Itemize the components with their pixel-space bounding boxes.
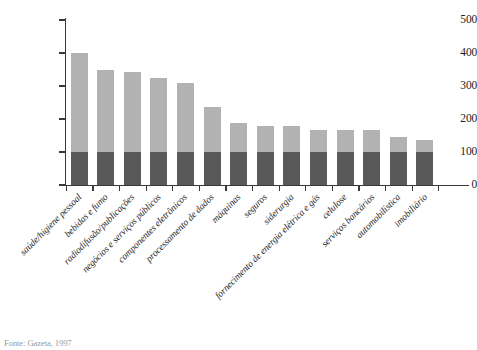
bar-segment-base — [204, 152, 221, 185]
bar-segment-upper — [97, 70, 114, 153]
bar-segment-base — [337, 152, 354, 185]
bar-segment-base — [363, 152, 380, 185]
bar — [337, 130, 354, 185]
bar-segment-upper — [283, 126, 300, 152]
source-caption: Fonte: Gazeta, 1997 — [4, 338, 72, 348]
bar-segment-base — [310, 152, 327, 185]
bar-segment-base — [124, 152, 141, 185]
bar-segment-base — [177, 152, 194, 185]
bar-segment-upper — [71, 53, 88, 152]
bar — [257, 126, 274, 185]
bar-segment-upper — [337, 130, 354, 152]
bar-segment-base — [97, 152, 114, 185]
bar-segment-upper — [177, 83, 194, 152]
bar — [416, 140, 433, 185]
bar-segment-upper — [150, 78, 167, 152]
bar-segment-upper — [257, 126, 274, 152]
bar-segment-base — [150, 152, 167, 185]
bar — [310, 130, 327, 185]
bars-layer — [0, 0, 477, 350]
bar-segment-upper — [124, 72, 141, 152]
bar-segment-base — [283, 152, 300, 185]
bar — [124, 72, 141, 185]
bar-segment-upper — [230, 123, 247, 152]
bar — [230, 123, 247, 185]
bar — [97, 70, 114, 186]
bar-segment-upper — [416, 140, 433, 152]
bar-segment-base — [257, 152, 274, 185]
bar — [363, 130, 380, 185]
bar-segment-upper — [390, 137, 407, 152]
bar-chart: 0100200300400500 saúde/higiene pessoalbe… — [0, 0, 477, 350]
bar-segment-base — [390, 152, 407, 185]
bar-segment-base — [71, 152, 88, 185]
bar — [150, 78, 167, 185]
bar-segment-base — [230, 152, 247, 185]
bar-segment-base — [416, 152, 433, 185]
bar — [204, 107, 221, 185]
bar — [283, 126, 300, 185]
bar — [177, 83, 194, 185]
bar — [390, 137, 407, 185]
bar — [71, 53, 88, 185]
bar-segment-upper — [310, 130, 327, 152]
bar-segment-upper — [204, 107, 221, 152]
bar-segment-upper — [363, 130, 380, 152]
